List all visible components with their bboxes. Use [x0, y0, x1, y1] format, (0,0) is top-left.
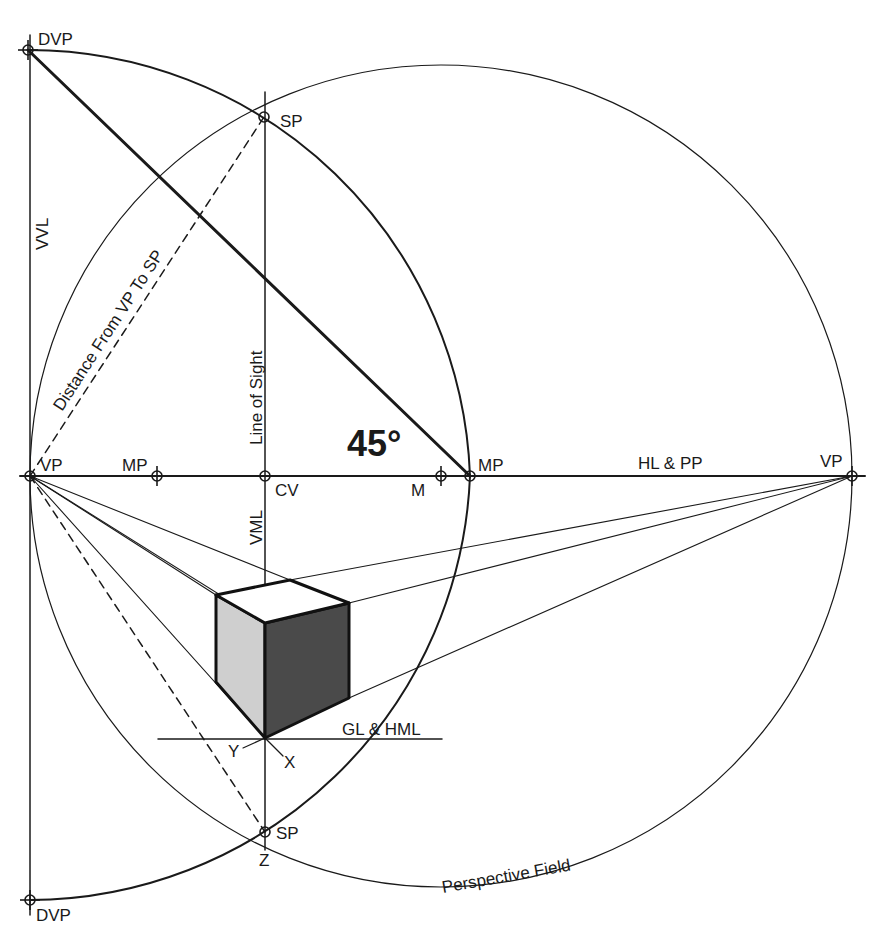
- dvp-bottom-label: DVP: [36, 906, 71, 925]
- cube: [216, 580, 349, 738]
- cv-label: CV: [275, 481, 299, 500]
- x-label: X: [284, 753, 295, 772]
- distance-dashed-top: [30, 117, 264, 476]
- sp-bottom-label: SP: [276, 824, 299, 843]
- mp-left-label: MP: [122, 456, 148, 475]
- sp-top-label: SP: [280, 112, 303, 131]
- dvp-top-label: DVP: [38, 30, 73, 49]
- hl-pp-label: HL & PP: [638, 454, 703, 473]
- perspective-diagram: DVP DVP SP SP VP VP MP MP M CV Z X Y HL …: [0, 0, 880, 949]
- vp-right-ray: [349, 476, 852, 698]
- vp-left-label: VP: [40, 456, 63, 475]
- gl-hml-label: GL & HML: [342, 720, 421, 739]
- vp-right-ray: [290, 476, 852, 580]
- y-label: Y: [228, 742, 239, 761]
- vml-label: VML: [247, 510, 266, 545]
- perspective-field-label: Perspective Field: [440, 856, 572, 897]
- distance-label: Distance From VP To SP: [49, 247, 167, 415]
- cube-right-face: [265, 603, 349, 738]
- z-label: Z: [259, 851, 269, 870]
- line-of-sight-label: Line of Sight: [247, 350, 266, 445]
- mp-right-label: MP: [478, 456, 504, 475]
- vvl-label: VVL: [33, 218, 52, 250]
- angle-label: 45°: [347, 423, 401, 464]
- x-axis-line: [265, 738, 283, 756]
- m-label: M: [411, 481, 425, 500]
- station-point-arc: [28, 50, 470, 900]
- vp-right-label: VP: [820, 452, 843, 471]
